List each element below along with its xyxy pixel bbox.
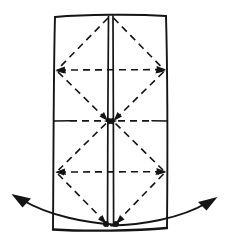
diag-band3-right xyxy=(116,124,164,171)
diag-band2-left-arrowhead xyxy=(100,112,109,121)
diag-band2-right-arrowhead xyxy=(114,112,123,121)
sheet-bottom-edge xyxy=(53,228,167,231)
swing-arrow-left-head xyxy=(12,194,32,208)
diagram-canvas xyxy=(0,0,229,248)
diag-band2-left xyxy=(58,72,106,119)
motion-arrows-group xyxy=(12,194,218,226)
diag-band3-left xyxy=(59,124,107,171)
pivot-dot-left xyxy=(103,221,109,227)
horizontal-creases-group xyxy=(56,66,167,176)
crease-pattern-svg xyxy=(0,0,229,248)
sheet-left-edge xyxy=(53,17,55,230)
swing-arrow-left-curve xyxy=(22,200,114,225)
diag-band1-right xyxy=(114,18,164,69)
diag-band2-right xyxy=(116,72,164,119)
sheet-right-edge xyxy=(166,16,167,228)
pivot-dot-right xyxy=(113,221,119,227)
swing-arrow-right-head xyxy=(198,197,218,211)
diag-band4-left xyxy=(58,174,104,221)
swing-arrow-right-curve xyxy=(111,203,208,226)
diag-band1-left xyxy=(59,18,109,69)
diag-band4-right xyxy=(118,174,164,221)
sheet-top-edge xyxy=(55,15,166,17)
